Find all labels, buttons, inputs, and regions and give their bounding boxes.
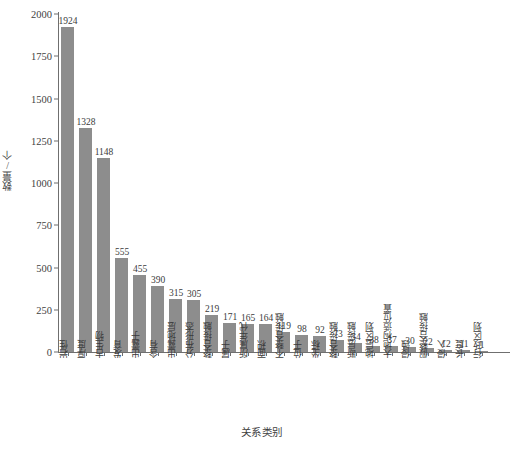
bar-slot[interactable]: 1924 (59, 14, 77, 352)
y-tick-label: 0 (14, 347, 52, 358)
plot-area: 1924132811485554553903153052191711651641… (59, 14, 510, 352)
y-tick-label: 1000 (14, 178, 52, 189)
bar-slot[interactable]: 455 (131, 14, 149, 352)
bar-slot[interactable]: 30 (401, 14, 419, 352)
bar-slot[interactable]: 92 (311, 14, 329, 352)
x-category-label: 古生物 (95, 331, 113, 358)
bar-slot[interactable]: 12 (437, 14, 455, 352)
x-category-label: 不整合接触 (275, 313, 293, 358)
x-category-label: 假整合接触 (419, 313, 437, 358)
y-tick-label: 2000 (14, 9, 52, 20)
x-category-label: 整合接触 (203, 322, 221, 358)
x-category-label: 出露地层 (167, 322, 185, 358)
bar-chart: 数量/个 025050075010001250150017502000 1924… (0, 0, 523, 449)
y-tick-label: 250 (14, 304, 52, 315)
bar-slot[interactable]: 305 (185, 14, 203, 352)
y-tick-mark (54, 267, 58, 268)
bar-slot[interactable]: 164 (257, 14, 275, 352)
bar-slot[interactable]: 119 (275, 14, 293, 352)
bar-slot[interactable]: 390 (149, 14, 167, 352)
bar-slot[interactable]: 1 (473, 14, 491, 352)
y-tick-mark (54, 309, 58, 310)
x-category-label: 整合接触 (329, 322, 347, 358)
bar-slot[interactable]: 1148 (95, 14, 113, 352)
y-tick-mark (54, 183, 58, 184)
x-category-label: 属于 (221, 340, 239, 358)
y-tick-mark (54, 14, 58, 15)
bar-slot[interactable]: 73 (329, 14, 347, 352)
y-tick-label: 500 (14, 262, 52, 273)
bar-slot[interactable]: 219 (203, 14, 221, 352)
x-category-label: 岩性 (59, 340, 77, 358)
x-category-label: 侵入 (437, 340, 455, 358)
y-tick-label: 1500 (14, 93, 52, 104)
bar[interactable] (79, 128, 92, 352)
bar-slot[interactable]: 555 (113, 14, 131, 352)
x-category-label: 侵蚀 (401, 340, 419, 358)
bar-slot[interactable]: 98 (293, 14, 311, 352)
y-tick-mark (54, 140, 58, 141)
bar-slot[interactable]: 54 (347, 14, 365, 352)
bar-slot[interactable]: 38 (365, 14, 383, 352)
y-tick-mark (54, 56, 58, 57)
y-tick-mark (54, 225, 58, 226)
bar-slot[interactable]: 37 (383, 14, 401, 352)
y-tick-mark (54, 98, 58, 99)
y-tick-label: 1250 (14, 135, 52, 146)
bar-slot[interactable]: 171 (221, 14, 239, 352)
x-category-label: 行政区划 (473, 322, 491, 358)
bar-slot[interactable]: 1328 (77, 14, 95, 352)
x-category-label: 面积 (257, 340, 275, 358)
x-axis-title: 关系类别 (0, 424, 523, 439)
bar-slot[interactable]: 315 (167, 14, 185, 352)
x-category-label: 分布形态 (185, 322, 203, 358)
x-category-label: 所属年代 (239, 322, 257, 358)
x-category-label: 出露于 (131, 331, 149, 358)
x-category-label: 断层接触 (347, 322, 365, 358)
x-category-label: 厚度 (77, 340, 95, 358)
x-category-label: 位于 (293, 340, 311, 358)
bar[interactable] (61, 27, 74, 352)
y-tick-label: 1750 (14, 51, 52, 62)
x-category-label: 大地构造位置 (383, 304, 401, 358)
bar-slot[interactable]: 165 (239, 14, 257, 352)
x-category-label: 长度 (455, 340, 473, 358)
y-tick-label: 750 (14, 220, 52, 231)
bar-slot[interactable]: 22 (419, 14, 437, 352)
bar-slot[interactable]: 11 (455, 14, 473, 352)
x-category-label: 坐标 (311, 340, 329, 358)
x-category-label: 地层区划 (365, 322, 383, 358)
x-category-label: 发育 (113, 340, 131, 358)
x-category-label: 含有 (149, 340, 167, 358)
